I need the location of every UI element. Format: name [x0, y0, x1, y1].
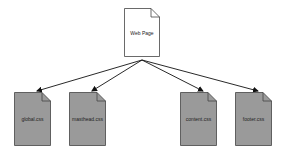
web-page-document: Web Page: [124, 8, 160, 57]
content-css-document: content.css: [180, 92, 217, 146]
web-page-label: Web Page: [124, 30, 160, 36]
dependency-arrow: [92, 60, 142, 91]
diagram-canvas: Web Page global.css masthead.css content…: [0, 0, 281, 153]
content-css-label: content.css: [180, 116, 217, 122]
footer-css-document: footer.css: [235, 92, 272, 146]
masthead-css-document: masthead.css: [69, 92, 106, 146]
footer-css-label: footer.css: [235, 116, 272, 122]
dependency-arrow: [142, 60, 258, 91]
global-css-document: global.css: [14, 92, 51, 146]
global-css-label: global.css: [14, 116, 51, 122]
dependency-arrow: [37, 60, 142, 91]
masthead-css-label: masthead.css: [69, 116, 106, 122]
dependency-arrow: [142, 60, 203, 91]
